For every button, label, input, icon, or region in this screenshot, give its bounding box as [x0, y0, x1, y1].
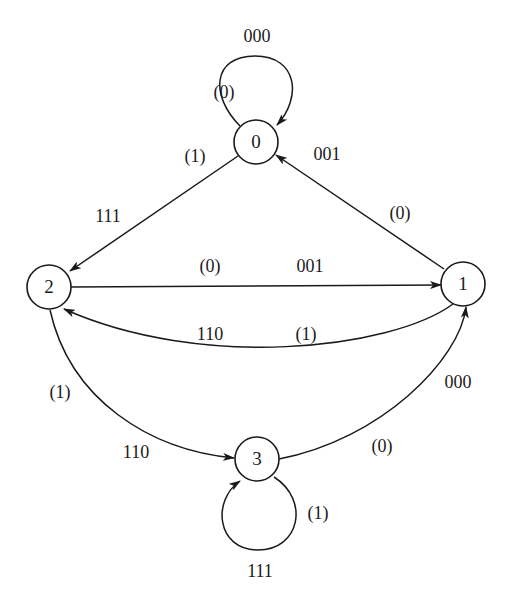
edge-0-2-output: 111	[95, 206, 121, 226]
state-diagram: 000 (0) (1) 111 001 (0) (0) 001 110 (1) …	[0, 0, 512, 604]
state-node-0: 0	[234, 120, 278, 164]
edge-1-to-0: 001 (0)	[276, 144, 444, 269]
edge-3-1-output: 000	[445, 372, 472, 392]
edge-2-1-arrow	[71, 285, 441, 287]
state-node-3-label: 3	[252, 448, 262, 469]
edge-3-3-output: 111	[247, 561, 273, 581]
edge-1-0-output: 001	[314, 144, 341, 164]
state-node-2: 2	[27, 265, 71, 309]
edge-1-to-2: 110 (1)	[64, 304, 453, 347]
edge-3-3-input: (1)	[308, 503, 329, 524]
self-loop-3-arrow	[222, 477, 296, 550]
edge-0-0-input: (0)	[214, 82, 235, 103]
edge-1-0-input: (0)	[390, 203, 411, 224]
edge-3-1-input: (0)	[372, 436, 393, 457]
edge-0-0-output: 000	[244, 26, 271, 46]
state-node-2-label: 2	[44, 276, 54, 297]
state-node-0-label: 0	[251, 131, 261, 152]
edge-0-2-input: (1)	[185, 146, 206, 167]
edge-1-2-input: (1)	[296, 324, 317, 345]
state-node-1: 1	[441, 262, 485, 306]
edge-2-to-1: (0) 001	[71, 256, 441, 287]
edge-0-to-0: 000 (0)	[214, 26, 293, 126]
edge-1-2-output: 110	[197, 324, 223, 344]
edge-2-1-output: 001	[297, 256, 324, 276]
edge-2-3-input: (1)	[50, 382, 71, 403]
state-node-1-label: 1	[458, 273, 468, 294]
state-node-3: 3	[235, 437, 279, 481]
edge-1-2-arrow	[64, 304, 453, 347]
edge-0-to-2: (1) 111	[70, 146, 238, 271]
edge-2-1-input: (0)	[200, 256, 221, 277]
edge-2-3-output: 110	[123, 442, 149, 462]
edge-3-to-3: (1) 111	[222, 477, 328, 581]
edge-1-0-arrow	[276, 155, 444, 269]
